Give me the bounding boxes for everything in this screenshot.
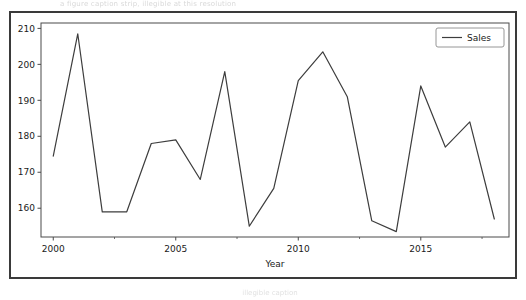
top-caption-smudge: a figure caption strip, illegible at thi…	[60, 0, 300, 9]
screenshot-root: a figure caption strip, illegible at thi…	[0, 0, 526, 300]
x-axis-tick-label: 2015	[409, 244, 432, 254]
y-axis-tick-label: 170	[18, 167, 35, 177]
sales-line-chart: 1601701801902002102000200520102015YearSa…	[11, 13, 515, 277]
x-axis-tick-label: 2005	[164, 244, 187, 254]
y-axis-tick-label: 160	[18, 203, 35, 213]
x-axis-tick-label: 2000	[42, 244, 65, 254]
bottom-caption-smudge: illegible caption	[180, 288, 360, 298]
x-axis-title: Year	[264, 259, 284, 269]
y-axis-tick-label: 210	[18, 24, 35, 34]
chart-figure: 1601701801902002102000200520102015YearSa…	[9, 11, 517, 279]
y-axis-tick-label: 200	[18, 60, 35, 70]
data-series-line	[53, 34, 494, 232]
x-axis-tick-label: 2010	[287, 244, 310, 254]
legend-label-sales: Sales	[467, 33, 491, 43]
y-axis-tick-label: 190	[18, 96, 35, 106]
y-axis-tick-label: 180	[18, 131, 35, 141]
